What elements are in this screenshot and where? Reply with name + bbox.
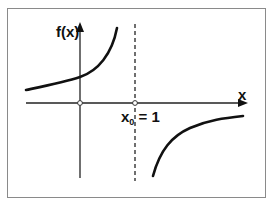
origin-marker (78, 101, 83, 106)
y-axis-label: f(x) (56, 23, 79, 40)
x0-marker (133, 101, 138, 106)
function-graph: f(x) x x0 = 1 (0, 0, 271, 204)
asymptote-label: x0 = 1 (121, 108, 160, 127)
x-axis-label: x (238, 86, 247, 103)
